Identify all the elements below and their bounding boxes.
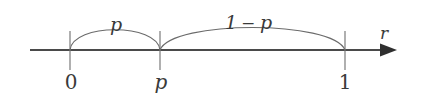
tick-label-p: p (155, 70, 168, 94)
number-line-figure: p 1 − p r 0 p 1 (0, 0, 427, 99)
arc-right-label-one: 1 (225, 11, 237, 33)
arc-left-label: p (110, 13, 122, 35)
arc-right-label-minus: − (241, 13, 255, 33)
axis-name-label: r (380, 23, 389, 43)
axis-arrowhead-icon (380, 44, 397, 57)
tick-label-zero: 0 (65, 70, 78, 94)
tick-label-one: 1 (339, 70, 352, 94)
figure-canvas: p 1 − p r 0 p 1 (0, 0, 427, 99)
arc-right-label-p: p (260, 11, 272, 33)
